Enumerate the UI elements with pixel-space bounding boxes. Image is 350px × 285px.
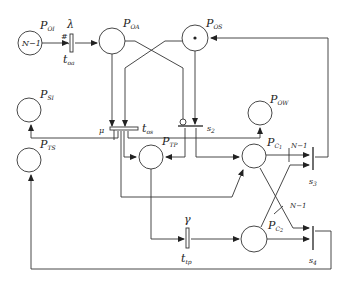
- label-s2: s2: [207, 124, 215, 134]
- poi-token-count: N−1: [21, 39, 41, 48]
- label-poa: POA: [122, 17, 140, 30]
- inhibitor-circle: [180, 119, 186, 125]
- label-s3: s3: [309, 177, 317, 187]
- arc-s2-pc1: [196, 128, 239, 157]
- label-ttp-rate: γ: [184, 213, 191, 226]
- label-pow: POW: [269, 93, 289, 106]
- place-pts: [17, 148, 41, 172]
- label-ttp: ttp: [181, 252, 192, 266]
- weight-tick-s4: [274, 206, 283, 214]
- label-pc2: PC2: [267, 219, 283, 233]
- place-ptp: [139, 145, 163, 169]
- label-tos-rate: μ: [99, 126, 104, 135]
- label-toa-marking: #: [61, 32, 68, 41]
- token-dot: [193, 36, 196, 39]
- label-s4: s4: [309, 256, 317, 266]
- arc-pos-tos: [125, 41, 183, 126]
- petri-net-diagram: N−1 POI POA POS PSI POW PTS PTP PC1 PC2 …: [0, 0, 350, 285]
- arc-pc2-s3: [261, 165, 309, 227]
- arc-tos-psi: [31, 125, 118, 138]
- weight-label-s4: N−1: [289, 202, 306, 210]
- label-psi: PSI: [39, 88, 55, 101]
- arc-tos-pc1: [121, 131, 243, 197]
- weight-label-s3: N−1: [290, 142, 307, 150]
- label-pc1: PC1: [266, 136, 282, 150]
- transition-ttp: [186, 228, 189, 248]
- arc-ptp-ttp: [151, 169, 184, 239]
- label-poi: POI: [39, 19, 55, 32]
- transition-toa: [70, 34, 73, 52]
- place-pc1: [242, 144, 266, 168]
- transition-tos: [110, 127, 138, 130]
- label-ptp: PTP: [161, 135, 178, 148]
- place-poa: [99, 28, 125, 54]
- place-psi: [17, 98, 41, 122]
- label-toa: toa: [63, 53, 75, 66]
- label-pts: PTS: [39, 138, 56, 151]
- label-pos: POS: [205, 17, 222, 30]
- arc-tos-ptp: [124, 131, 136, 157]
- label-tos: tos: [142, 122, 153, 135]
- label-toa-rate: λ: [66, 18, 74, 31]
- arc-poa-s2-inhibitor: [125, 41, 183, 120]
- place-pc2: [241, 226, 267, 252]
- place-pow: [248, 101, 272, 125]
